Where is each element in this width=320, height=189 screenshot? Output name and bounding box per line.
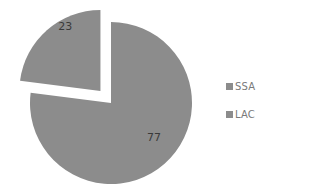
chart-legend: SSA LAC <box>226 79 255 135</box>
legend-item-ssa: SSA <box>226 79 255 93</box>
legend-swatch-lac <box>226 111 233 118</box>
data-label-lac: 23 <box>58 20 72 33</box>
legend-item-lac: LAC <box>226 107 255 121</box>
data-label-ssa: 77 <box>147 131 161 144</box>
legend-label-lac: LAC <box>235 109 255 120</box>
legend-label-ssa: SSA <box>235 81 255 92</box>
legend-swatch-ssa <box>226 83 233 90</box>
